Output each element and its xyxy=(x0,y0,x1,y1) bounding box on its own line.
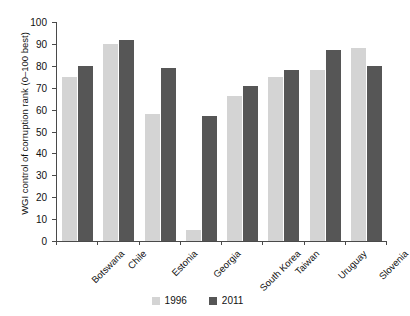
plot-area: 0102030405060708090100 xyxy=(56,22,386,241)
bar-uruguay-1996 xyxy=(310,70,325,241)
x-axis-tick-mark xyxy=(139,241,140,245)
y-axis-tick-mark xyxy=(52,175,56,176)
y-axis-tick-mark xyxy=(52,88,56,89)
bar-slovenia-1996 xyxy=(351,48,366,241)
x-axis-label-georgia: Georgia xyxy=(211,248,243,280)
y-axis-tick-label: 60 xyxy=(36,104,47,115)
bar-taiwan-1996 xyxy=(268,77,283,241)
bar-georgia-1996 xyxy=(186,230,201,241)
y-axis-title: WGI control of corruption rank (0–100 be… xyxy=(19,4,30,244)
bar-taiwan-2011 xyxy=(284,70,299,241)
x-axis-tick-mark xyxy=(304,241,305,245)
y-axis-tick-mark xyxy=(52,44,56,45)
x-axis-label-botswana: Botswana xyxy=(90,248,127,285)
bar-group xyxy=(103,22,138,241)
x-axis-tick-mark xyxy=(221,241,222,245)
y-axis-tick-label: 40 xyxy=(36,148,47,159)
bar-south-korea-1996 xyxy=(227,96,242,241)
x-axis-tick-mark xyxy=(56,241,57,245)
x-axis-label-chile: Chile xyxy=(125,248,148,271)
bar-group xyxy=(268,22,303,241)
legend-label: 1996 xyxy=(165,295,187,306)
y-axis-tick-label: 10 xyxy=(36,214,47,225)
bar-group xyxy=(62,22,97,241)
y-axis-tick-mark xyxy=(52,132,56,133)
y-axis-tick-mark xyxy=(52,66,56,67)
y-axis-tick-label: 80 xyxy=(36,60,47,71)
y-axis-tick-label: 20 xyxy=(36,192,47,203)
bar-uruguay-2011 xyxy=(326,50,341,241)
chart-legend: 19962011 xyxy=(0,295,395,306)
bar-chile-2011 xyxy=(119,40,134,241)
y-axis-tick-label: 30 xyxy=(36,170,47,181)
bar-estonia-1996 xyxy=(145,114,160,241)
y-axis-tick-label: 0 xyxy=(41,236,47,247)
y-axis-tick-mark xyxy=(52,22,56,23)
bar-group xyxy=(186,22,221,241)
x-axis-tick-mark xyxy=(262,241,263,245)
bar-group xyxy=(227,22,262,241)
y-axis-tick-mark xyxy=(52,197,56,198)
bar-chile-1996 xyxy=(103,44,118,241)
legend-item-1996: 1996 xyxy=(152,295,187,306)
y-axis-tick-label: 70 xyxy=(36,82,47,93)
x-axis-tick-mark xyxy=(97,241,98,245)
x-axis-label-uruguay: Uruguay xyxy=(335,248,368,281)
legend-item-2011: 2011 xyxy=(209,295,244,306)
y-axis-tick-mark xyxy=(52,153,56,154)
bar-estonia-2011 xyxy=(161,68,176,241)
legend-swatch-2011 xyxy=(209,297,217,305)
y-axis-tick-label: 50 xyxy=(36,126,47,137)
y-axis-tick-mark xyxy=(52,110,56,111)
bar-group xyxy=(310,22,345,241)
x-axis-tick-mark xyxy=(180,241,181,245)
bar-south-korea-2011 xyxy=(243,86,258,241)
bar-group xyxy=(145,22,180,241)
legend-label: 2011 xyxy=(222,295,244,306)
bar-botswana-1996 xyxy=(62,77,77,241)
bar-slovenia-2011 xyxy=(367,66,382,241)
x-axis-tick-mark xyxy=(386,241,387,245)
x-axis-tick-mark xyxy=(345,241,346,245)
y-axis-tick-label: 90 xyxy=(36,38,47,49)
x-axis-label-estonia: Estonia xyxy=(169,248,199,278)
bar-georgia-2011 xyxy=(202,116,217,241)
x-axis-label-slovenia: Slovenia xyxy=(377,248,410,282)
y-axis-tick-label: 100 xyxy=(30,17,47,28)
y-axis-tick-mark xyxy=(52,219,56,220)
bar-group xyxy=(351,22,386,241)
legend-swatch-1996 xyxy=(152,297,160,305)
bar-botswana-2011 xyxy=(78,66,93,241)
